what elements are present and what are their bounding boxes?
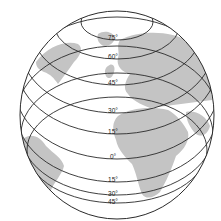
latitude-label-n60: 60° — [108, 53, 118, 60]
globe-diagram: 75°60°45°30°15°0°15°30°45° — [0, 0, 221, 221]
latitude-label-n75: 75° — [108, 34, 118, 41]
latitude-label-n45: 45° — [108, 79, 118, 86]
latitude-label-s15: 15° — [108, 176, 118, 183]
latitude-label-eq: 0° — [110, 153, 117, 160]
latitude-label-s30: 30° — [108, 190, 118, 197]
latitude-label-s45: 45° — [108, 198, 118, 205]
latitude-label-n30: 30° — [108, 107, 118, 114]
latitude-label-n15: 15° — [108, 128, 118, 135]
europe-asia-landmass — [118, 33, 212, 108]
